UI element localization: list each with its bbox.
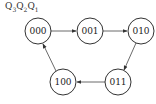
state-001: 001 [77, 18, 103, 44]
state-000: 000 [25, 18, 51, 44]
edge-010-to-011 [124, 43, 136, 70]
state-100-label: 100 [54, 77, 71, 87]
state-010-label: 010 [132, 26, 149, 36]
edge-100-to-000 [43, 44, 56, 71]
state-000-label: 000 [29, 26, 46, 36]
state-100: 100 [50, 69, 76, 95]
state-011: 011 [105, 69, 131, 95]
state-010: 010 [128, 18, 154, 44]
state-diagram: 000 001 010 011 100 [0, 0, 156, 104]
state-011-label: 011 [109, 77, 126, 87]
state-001-label: 001 [81, 26, 98, 36]
